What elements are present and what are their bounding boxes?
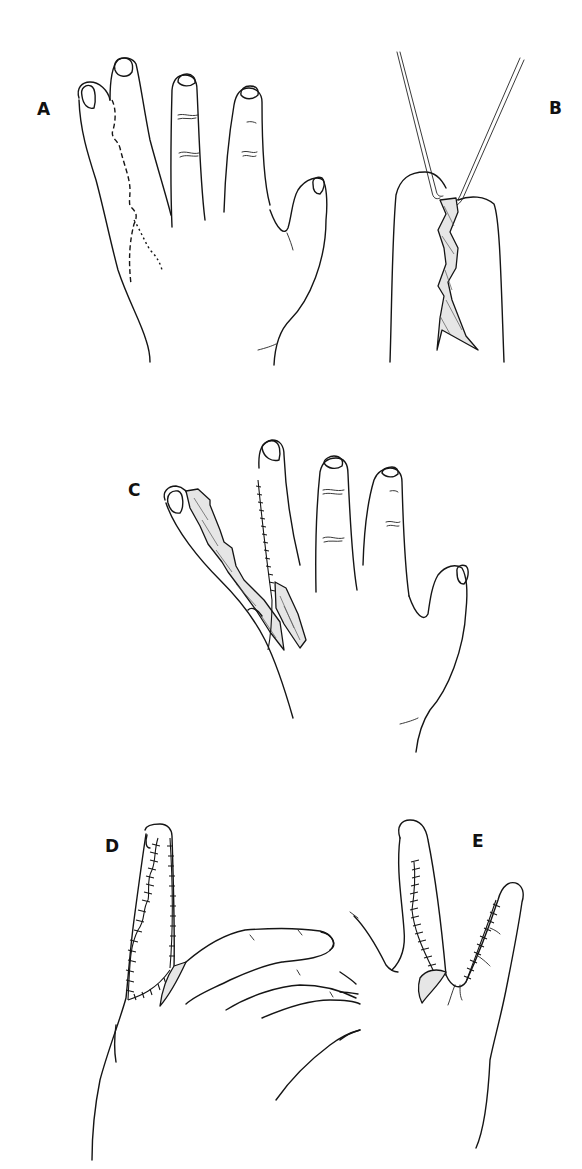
panel-a-hand-drawing bbox=[78, 58, 327, 365]
panel-b-separation-drawing bbox=[390, 52, 524, 362]
illustration-canvas bbox=[0, 0, 582, 1169]
surgical-illustration-figure: A B C D E bbox=[0, 0, 582, 1169]
panel-c-flap-drawing bbox=[164, 440, 468, 752]
panel-d-sutured-finger-drawing bbox=[92, 824, 360, 1160]
panel-e-sutured-web-drawing bbox=[340, 820, 523, 1148]
